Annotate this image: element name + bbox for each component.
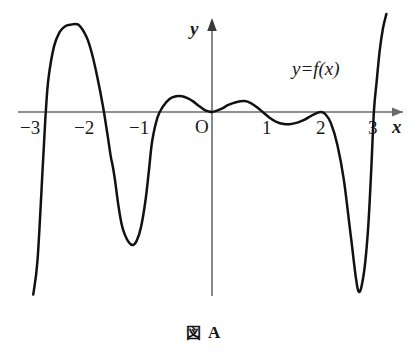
y-axis-arrowhead	[207, 18, 217, 31]
xtick-label-2: 2	[316, 118, 326, 137]
xtick-label-neg2: −2	[74, 118, 94, 137]
function-curve	[33, 14, 386, 295]
figure-container: −3 −2 −1 O 1 2 3 x y y=f(x) 図A	[0, 0, 420, 361]
x-axis-label: x	[392, 117, 402, 136]
xtick-label-neg3: −3	[20, 118, 40, 137]
figure-caption: 図A	[186, 324, 220, 341]
y-axis-label: y	[190, 19, 198, 38]
curve-equation-label: y=f(x)	[292, 59, 340, 78]
figure-caption-kanji: 図	[186, 324, 201, 342]
figure-caption-letter: A	[208, 323, 220, 342]
y-axis	[207, 18, 217, 296]
origin-label: O	[195, 117, 209, 136]
xtick-label-3: 3	[368, 118, 378, 137]
xtick-label-neg1: −1	[129, 118, 149, 137]
xtick-label-1: 1	[262, 118, 272, 137]
graph-plot-area	[0, 0, 420, 361]
